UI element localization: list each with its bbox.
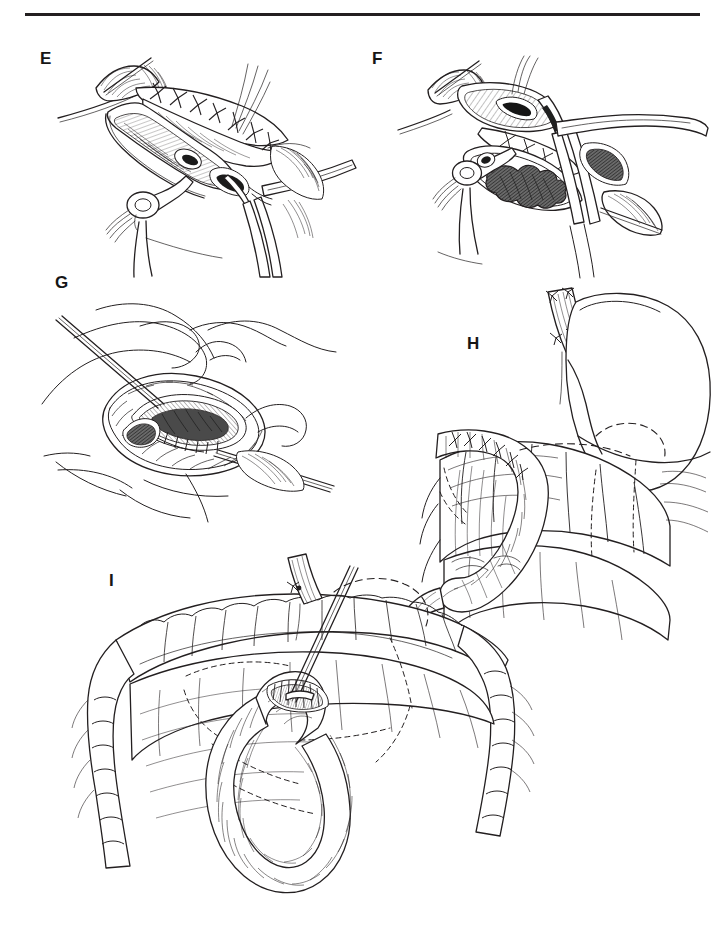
e-upper-flap: [96, 58, 169, 101]
f-retractor-blades[interactable]: [538, 96, 600, 278]
e-orifices: [172, 145, 249, 196]
e-ring-instrument[interactable]: [106, 176, 193, 277]
e-suture-line: [136, 64, 288, 166]
h-left-fragment: [422, 478, 440, 518]
h-dashed-5: [444, 468, 468, 514]
h-roux-limb: [436, 430, 548, 612]
panel-h-artwork: [404, 288, 710, 640]
f-ring-instrument[interactable]: [433, 148, 516, 254]
panel-label-e: E: [40, 50, 52, 67]
i-dashed-7: [224, 780, 316, 814]
f-right-shaft[interactable]: [556, 115, 708, 136]
g-needle[interactable]: [56, 316, 164, 408]
e-right-shaft[interactable]: [262, 160, 356, 196]
h-omentum: [444, 545, 670, 640]
i-dashed-4: [376, 706, 410, 762]
panel-i-artwork: [72, 554, 534, 893]
top-rule: [25, 13, 700, 16]
i-jejunal-loop: [206, 672, 352, 893]
g-mucosal-cluster: [123, 419, 160, 448]
f-upper-cavity: [458, 83, 560, 132]
i-traction-needle[interactable]: [286, 566, 358, 702]
i-transverse-colon: [116, 594, 508, 682]
panel-label-i: I: [109, 572, 114, 589]
g-anastomosis: [103, 374, 265, 476]
f-orifice: [475, 150, 497, 169]
i-right-shading: [508, 686, 534, 792]
i-dashed-2: [184, 690, 218, 736]
h-dashed-1: [520, 444, 630, 456]
g-running-suture: [146, 424, 218, 454]
i-left-shading: [72, 700, 94, 818]
panel-e-artwork: [58, 58, 356, 277]
i-dashed-3: [390, 638, 412, 708]
h-dashed-4: [591, 470, 596, 558]
f-right-flap: [600, 191, 662, 235]
h-anastomosis-sutures: [449, 432, 528, 480]
g-suture-strands: [74, 322, 286, 384]
f-suture-row: [478, 128, 580, 175]
e-open-lumen: [106, 103, 238, 198]
i-ascending-colon: [87, 640, 134, 868]
i-mesentery: [130, 652, 494, 818]
f-right-pocket: [580, 143, 629, 185]
h-esophagus: [546, 288, 590, 404]
e-right-hatch: [268, 144, 324, 200]
h-transverse-colon: [440, 442, 670, 566]
i-dashed-5: [300, 728, 390, 740]
i-clamped-pedicle: [287, 554, 322, 640]
panel-g-artwork: [42, 304, 336, 522]
figure-artwork: .s{fill:none;stroke:#231f20;stroke-linec…: [0, 0, 722, 941]
e-stitch-group: [150, 83, 279, 153]
i-dashed-arc-top: [334, 578, 428, 626]
g-right-strands: [214, 405, 334, 493]
i-descending-colon: [458, 626, 515, 836]
h-dashed-6: [440, 492, 468, 526]
e-clamp-arms[interactable]: [224, 175, 282, 277]
figure-root: E F G H I .s{fill:none;stroke:#231f20;st…: [0, 0, 722, 941]
h-stump-knots: [546, 288, 578, 345]
h-dashed-3: [633, 460, 636, 552]
e-bottom-hatch: [283, 200, 313, 238]
i-topright-fragment: [452, 556, 520, 570]
i-dashed-6: [212, 744, 300, 784]
i-dashed-1: [186, 662, 290, 676]
f-left-flap: [428, 61, 491, 104]
panel-label-g: G: [55, 274, 69, 291]
i-suture-patch: [267, 680, 328, 712]
h-dashed-2: [596, 423, 665, 460]
panel-f-artwork: [398, 56, 708, 278]
panel-label-h: H: [467, 335, 480, 352]
h-stomach-lower-border: [578, 436, 710, 463]
g-right-flap: [236, 451, 304, 491]
h-right-hatch: [660, 471, 708, 532]
panel-label-f: F: [372, 50, 383, 67]
h-stomach: [566, 293, 710, 491]
f-tumor-cavity: [463, 146, 582, 210]
